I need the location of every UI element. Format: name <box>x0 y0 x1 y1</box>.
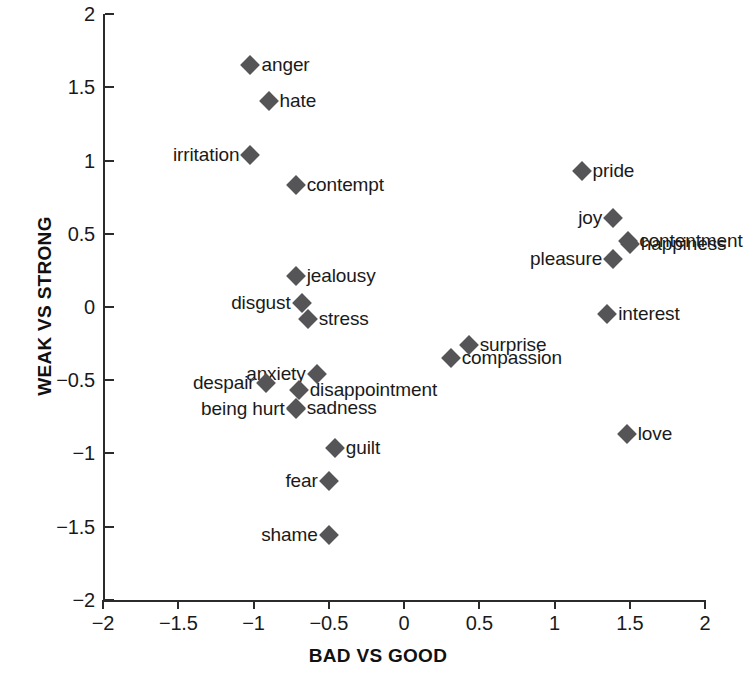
data-point-label: contempt <box>307 174 384 196</box>
diamond-marker-icon <box>441 348 461 368</box>
x-axis-title: BAD VS GOOD <box>0 645 756 667</box>
y-tick-label: 1 <box>84 149 95 172</box>
data-point-label: interest <box>618 303 680 325</box>
diamond-marker-icon <box>286 400 306 420</box>
data-point-label: guilt <box>346 437 380 459</box>
data-point-label: anger <box>261 54 309 76</box>
diamond-marker-icon <box>325 438 345 458</box>
x-tick <box>102 600 104 609</box>
x-tick-label: −1.5 <box>159 612 198 635</box>
diamond-marker-icon <box>597 304 617 324</box>
data-point-label: pleasure <box>530 248 602 270</box>
x-tick-label: 0 <box>399 612 410 635</box>
diamond-marker-icon <box>603 249 623 269</box>
y-tick-label: 0.5 <box>68 222 95 245</box>
data-point-label: disgust <box>231 292 291 314</box>
diamond-marker-icon <box>241 56 261 76</box>
x-tick-label: 2 <box>700 612 711 635</box>
data-point-label: being hurt <box>201 398 285 420</box>
x-tick <box>403 600 405 609</box>
diamond-marker-icon <box>572 161 592 181</box>
x-tick-label: −2 <box>92 612 114 635</box>
plot-area: −2−1.5−1−0.500.511.52 21.510.50−0.5−1−1.… <box>0 0 756 686</box>
scatter-plot-figure: −2−1.5−1−0.500.511.52 21.510.50−0.5−1−1.… <box>0 0 756 686</box>
y-tick <box>105 379 114 381</box>
data-point-label: fear <box>285 470 317 492</box>
y-tick <box>105 526 114 528</box>
diamond-marker-icon <box>603 208 623 228</box>
x-tick-label: 1.5 <box>616 612 643 635</box>
data-point-label: happiness <box>641 233 727 255</box>
y-tick-label: −1 <box>73 442 95 465</box>
diamond-marker-icon <box>617 424 637 444</box>
x-tick <box>328 600 330 609</box>
data-point-label: stress <box>319 308 369 330</box>
data-point-label: love <box>638 423 672 445</box>
diamond-marker-icon <box>241 145 261 165</box>
x-tick-label: 0.5 <box>466 612 493 635</box>
diamond-marker-icon <box>286 176 306 196</box>
y-tick-label: −2 <box>73 588 95 611</box>
x-tick <box>253 600 255 609</box>
y-tick <box>105 160 114 162</box>
x-tick <box>177 600 179 609</box>
data-point-label: compassion <box>462 347 562 369</box>
y-tick <box>105 13 114 15</box>
y-tick-label: 0 <box>84 296 95 319</box>
y-tick-label: −0.5 <box>56 369 95 392</box>
x-tick-label: −1 <box>242 612 264 635</box>
diamond-marker-icon <box>319 525 339 545</box>
x-tick <box>478 600 480 609</box>
y-tick <box>105 233 114 235</box>
x-tick-label: −0.5 <box>309 612 348 635</box>
diamond-marker-icon <box>286 266 306 286</box>
y-axis-line <box>103 14 105 602</box>
data-point-label: joy <box>578 207 602 229</box>
x-tick <box>629 600 631 609</box>
y-tick <box>105 599 114 601</box>
data-point-label: jealousy <box>307 265 376 287</box>
x-tick <box>704 600 706 609</box>
data-point-label: pride <box>593 160 635 182</box>
x-tick-label: 1 <box>549 612 560 635</box>
data-point-label: shame <box>261 524 318 546</box>
data-point-label: irritation <box>173 144 240 166</box>
y-axis-title: WEAK VS STRONG <box>34 6 56 606</box>
data-point-label: sadness <box>307 397 377 419</box>
y-tick-label: 2 <box>84 3 95 26</box>
diamond-marker-icon <box>259 91 279 111</box>
data-point-label: despair <box>193 372 255 394</box>
y-tick <box>105 452 114 454</box>
x-tick <box>554 600 556 609</box>
y-tick <box>105 306 114 308</box>
data-point-label: hate <box>280 90 317 112</box>
y-tick-label: 1.5 <box>68 76 95 99</box>
y-tick-label: −1.5 <box>56 515 95 538</box>
y-tick <box>105 86 114 88</box>
diamond-marker-icon <box>319 471 339 491</box>
